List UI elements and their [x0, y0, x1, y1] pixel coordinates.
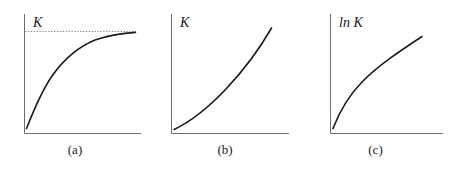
panel-b: K (b)	[150, 0, 300, 170]
plot-b	[150, 0, 300, 143]
y-axis-label-c: ln K	[339, 16, 363, 30]
caption-a: (a)	[0, 143, 150, 156]
curve-logarithmic-c	[333, 37, 422, 129]
curve-saturating-a	[27, 32, 136, 128]
plot-a	[0, 0, 150, 143]
caption-c: (c)	[300, 143, 451, 156]
y-axis-label-b: K	[180, 16, 189, 30]
panel-c: ln K (c)	[300, 0, 451, 170]
panel-a: K (a)	[0, 0, 150, 170]
y-axis-label-a: K	[33, 16, 42, 30]
caption-b: (b)	[150, 143, 300, 156]
plot-c	[300, 0, 451, 143]
curve-exponential-b	[174, 28, 272, 130]
figure-three-panel-kinetics: K (a) K (b) ln K (c)	[0, 0, 451, 170]
